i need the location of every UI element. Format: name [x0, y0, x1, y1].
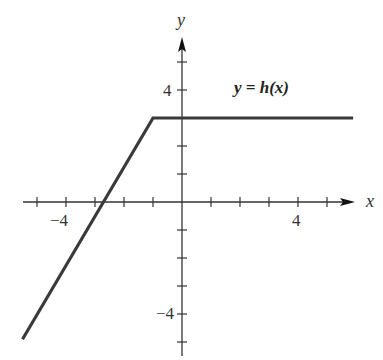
y-tick-label-4: 4 [163, 81, 172, 100]
x-tick-label-4: 4 [292, 211, 301, 230]
series-line [23, 118, 354, 339]
y-axis-label: y [175, 10, 185, 30]
y-tick-label-neg4: −4 [156, 304, 175, 323]
x-axis-label: x [365, 191, 374, 211]
function-label: y = h(x) [232, 78, 289, 97]
x-tick-label-neg4: −4 [50, 211, 69, 230]
function-graph: x y −4 4 4 −4 y = h(x) [0, 0, 383, 360]
function-line [23, 118, 354, 339]
axes [23, 37, 355, 356]
